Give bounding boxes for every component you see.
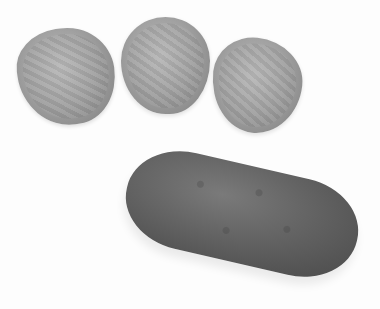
photo-scene <box>0 0 380 309</box>
pickle-slice-middle <box>121 17 210 114</box>
whole-pickle <box>116 140 368 289</box>
pickle-slice-right <box>207 34 306 138</box>
pickle-slice-left <box>12 22 122 132</box>
